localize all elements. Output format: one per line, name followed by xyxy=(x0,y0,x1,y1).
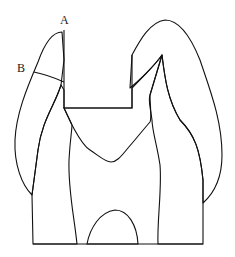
pulp-horn-bottom xyxy=(87,210,138,244)
label-b: B xyxy=(17,62,25,74)
label-a: A xyxy=(60,14,69,26)
tooth-diagram xyxy=(0,0,235,257)
line-b xyxy=(34,72,64,82)
cavity-preparation xyxy=(64,30,132,108)
enamel-left xyxy=(15,32,64,195)
dentin-right xyxy=(149,55,203,244)
dentin-left xyxy=(32,85,77,244)
